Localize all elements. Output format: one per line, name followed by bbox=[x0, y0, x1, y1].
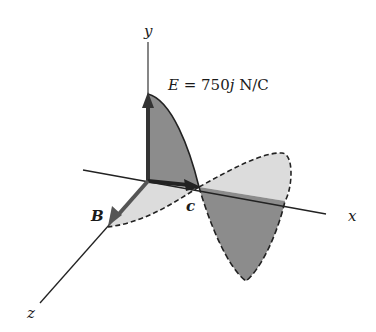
e-magnitude: 750 bbox=[201, 76, 230, 94]
c-velocity-label: c bbox=[186, 197, 195, 215]
e-symbol: E bbox=[167, 76, 179, 94]
b-field-label: B bbox=[90, 207, 104, 225]
x-axis-label: x bbox=[348, 207, 357, 225]
y-axis-label: y bbox=[143, 22, 153, 40]
z-axis-label: z bbox=[26, 304, 35, 322]
em-wave-diagram: y x z E = 750j N/C B c bbox=[0, 0, 376, 332]
e-wave-lobe-near bbox=[148, 94, 199, 187]
e-units: N/C bbox=[234, 76, 268, 94]
e-field-equation: E = 750j N/C bbox=[167, 76, 269, 94]
e-wave-lobe-far bbox=[199, 187, 285, 281]
equals-sign: = bbox=[179, 76, 201, 94]
